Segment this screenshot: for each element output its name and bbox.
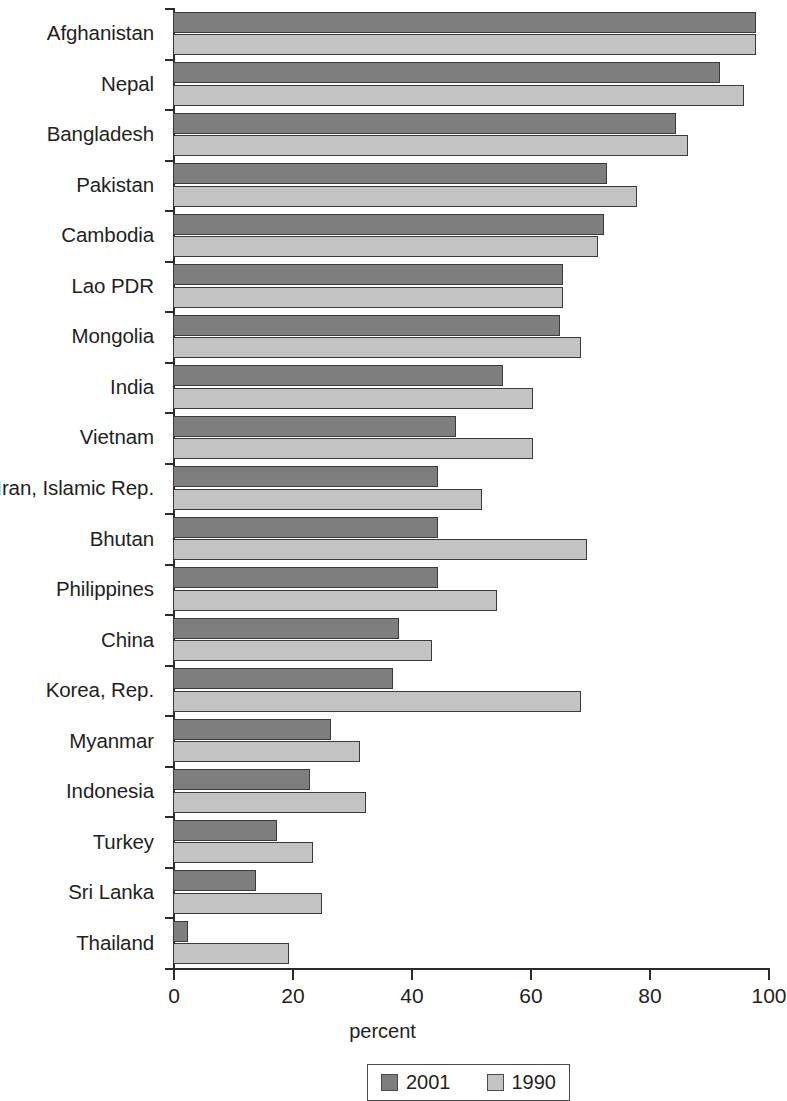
- legend-label-2001: 2001: [406, 1072, 451, 1092]
- category-label-india: India: [110, 377, 154, 398]
- bar-1990-philippines: [173, 590, 497, 611]
- category-label-philippines: Philippines: [56, 579, 154, 600]
- bar-2001-sri-lanka: [173, 870, 256, 891]
- bar-2001-cambodia: [173, 214, 604, 235]
- bar-1990-pakistan: [173, 186, 637, 207]
- x-tick-label: 100: [751, 985, 786, 1006]
- bar-2001-turkey: [173, 820, 277, 841]
- bar-2001-pakistan: [173, 163, 607, 184]
- bar-2001-afghanistan: [173, 12, 756, 33]
- bar-1990-myanmar: [173, 741, 360, 762]
- bar-1990-lao-pdr: [173, 287, 563, 308]
- legend: 2001 1990: [367, 1064, 570, 1101]
- bar-2001-philippines: [173, 567, 438, 588]
- bar-2001-iran-islamic-rep: [173, 466, 438, 487]
- bar-2001-lao-pdr: [173, 264, 563, 285]
- bars-container: [173, 8, 768, 968]
- bar-1990-indonesia: [173, 792, 366, 813]
- x-tick: [292, 970, 294, 980]
- x-tick: [530, 970, 532, 980]
- category-label-indonesia: Indonesia: [66, 781, 154, 802]
- legend-swatch-1990-icon: [487, 1074, 504, 1091]
- x-tick: [649, 970, 651, 980]
- legend-item-1990: 1990: [487, 1072, 557, 1092]
- bar-2001-korea-rep: [173, 668, 393, 689]
- bar-1990-bangladesh: [173, 135, 688, 156]
- bar-1990-bhutan: [173, 539, 587, 560]
- category-label-myanmar: Myanmar: [69, 731, 154, 752]
- category-label-korea-rep: Korea, Rep.: [46, 680, 154, 701]
- x-tick: [173, 970, 175, 980]
- category-label-turkey: Turkey: [93, 832, 154, 853]
- bar-2001-nepal: [173, 62, 720, 83]
- x-tick-label: 60: [519, 985, 542, 1006]
- bar-1990-turkey: [173, 842, 313, 863]
- category-label-thailand: Thailand: [76, 933, 154, 954]
- x-axis-title-text: percent: [349, 1020, 416, 1042]
- x-axis-line: [173, 968, 770, 970]
- category-label-iran-islamic-rep: Iran, Islamic Rep.: [0, 478, 154, 499]
- x-tick-label: 20: [281, 985, 304, 1006]
- x-tick-label: 40: [400, 985, 423, 1006]
- category-label-cambodia: Cambodia: [61, 225, 154, 246]
- bar-1990-india: [173, 388, 533, 409]
- bar-1990-sri-lanka: [173, 893, 322, 914]
- category-axis-labels: AfghanistanNepalBangladeshPakistanCambod…: [0, 8, 162, 968]
- category-label-pakistan: Pakistan: [76, 175, 154, 196]
- bar-2001-bangladesh: [173, 113, 676, 134]
- category-label-mongolia: Mongolia: [72, 326, 154, 347]
- bar-2001-indonesia: [173, 769, 310, 790]
- category-label-afghanistan: Afghanistan: [47, 23, 154, 44]
- bar-1990-vietnam: [173, 438, 533, 459]
- bar-1990-cambodia: [173, 236, 598, 257]
- bar-1990-china: [173, 640, 432, 661]
- category-label-lao-pdr: Lao PDR: [72, 276, 154, 297]
- x-tick-label: 80: [638, 985, 661, 1006]
- legend-item-2001: 2001: [381, 1072, 451, 1092]
- x-axis-title: percent: [0, 1021, 785, 1041]
- bar-2001-myanmar: [173, 719, 331, 740]
- plot-area: AfghanistanNepalBangladeshPakistanCambod…: [0, 0, 785, 985]
- bar-1990-afghanistan: [173, 34, 756, 55]
- bar-1990-iran-islamic-rep: [173, 489, 482, 510]
- x-tick: [768, 970, 770, 980]
- bar-2001-bhutan: [173, 517, 438, 538]
- bar-1990-mongolia: [173, 337, 581, 358]
- bar-2001-vietnam: [173, 416, 456, 437]
- bar-2001-thailand: [173, 921, 188, 942]
- bar-2001-china: [173, 618, 399, 639]
- category-label-china: China: [101, 630, 154, 651]
- category-label-nepal: Nepal: [101, 74, 154, 95]
- bar-2001-india: [173, 365, 503, 386]
- bar-2001-mongolia: [173, 315, 560, 336]
- bar-1990-korea-rep: [173, 691, 581, 712]
- x-tick: [411, 970, 413, 980]
- x-tick-label: 0: [168, 985, 180, 1006]
- category-label-bhutan: Bhutan: [90, 529, 154, 550]
- category-label-bangladesh: Bangladesh: [47, 124, 154, 145]
- legend-label-1990: 1990: [512, 1072, 557, 1092]
- category-label-sri-lanka: Sri Lanka: [68, 882, 154, 903]
- bar-1990-nepal: [173, 85, 744, 106]
- legend-swatch-2001-icon: [381, 1074, 398, 1091]
- bar-1990-thailand: [173, 943, 289, 964]
- category-label-vietnam: Vietnam: [80, 427, 154, 448]
